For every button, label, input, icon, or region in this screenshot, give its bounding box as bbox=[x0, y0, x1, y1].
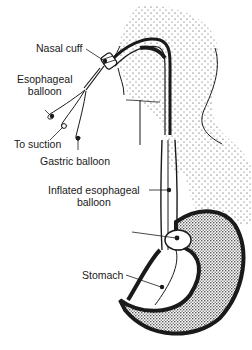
label-stomach: Stomach bbox=[82, 269, 123, 281]
label-inflated-esophageal-line1: Inflated esophageal bbox=[48, 184, 140, 196]
label-to-suction: To suction bbox=[14, 138, 61, 150]
label-gastric-balloon: Gastric balloon bbox=[40, 155, 110, 167]
inflated-esophageal-balloon bbox=[165, 230, 191, 250]
label-esophageal-balloon-line2: balloon bbox=[17, 85, 72, 97]
gastric-balloon-port bbox=[76, 136, 80, 140]
label-esophageal-balloon-line1: Esophageal bbox=[17, 73, 72, 85]
label-inflated-esophageal-line2: balloon bbox=[48, 196, 140, 208]
label-inflated-esophageal-balloon: Inflated esophageal balloon bbox=[48, 184, 140, 208]
label-esophageal-balloon: Esophageal balloon bbox=[17, 73, 72, 97]
diagram-canvas: Nasal cuff Esophageal balloon To suction… bbox=[0, 0, 252, 350]
label-nasal-cuff: Nasal cuff bbox=[36, 42, 83, 54]
